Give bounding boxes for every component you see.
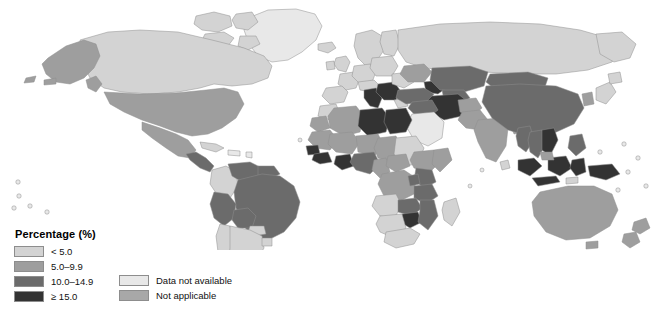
island-dot-pacific-7 (636, 156, 640, 160)
legend-label-lt-5: < 5.0 (51, 246, 72, 257)
choropleth-map-figure: .c0{fill:#d3d3d3;} /* < 5.0 */ .c1{fill:… (0, 0, 661, 325)
island-dot-pacific-9 (644, 184, 648, 188)
legend-column-percentage: < 5.0 5.0–9.9 10.0–14.9 ≥ 15.0 (14, 246, 93, 306)
island-dot-pacific-6 (622, 142, 626, 146)
island-dot-pacific-1 (16, 180, 20, 184)
map-legend: Percentage (%) < 5.0 5.0–9.9 10.0–14.9 (14, 228, 244, 318)
island-dot-pacific-5 (45, 210, 49, 214)
legend-item-not-applicable: Not applicable (119, 290, 232, 301)
legend-label-data-not-available: Data not available (156, 275, 232, 286)
region-ireland (326, 61, 335, 70)
region-poland-baltics (370, 56, 398, 76)
region-malaysia (540, 152, 554, 160)
legend-swatch-10-to-14 (14, 276, 44, 287)
legend-label-gte-15: ≥ 15.0 (51, 291, 77, 302)
island-dot-indian-1 (468, 184, 472, 188)
world-map-svg: .c0{fill:#d3d3d3;} /* < 5.0 */ .c1{fill:… (0, 0, 661, 250)
region-uruguay (262, 238, 272, 246)
island-dot-atlantic-1 (298, 138, 302, 142)
island-dot-pacific-10 (616, 188, 620, 192)
legend-swatch-gte-15 (14, 291, 44, 302)
legend-swatch-not-applicable (119, 290, 149, 301)
legend-swatch-lt-5 (14, 246, 44, 257)
legend-item-gte-15: ≥ 15.0 (14, 291, 93, 302)
region-uganda-rwanda (408, 174, 420, 186)
legend-label-not-applicable: Not applicable (156, 290, 216, 301)
legend-label-5-to-9: 5.0–9.9 (51, 261, 83, 272)
legend-swatch-5-to-9 (14, 261, 44, 272)
legend-title: Percentage (%) (15, 228, 244, 241)
island-dot-pacific-3 (12, 206, 16, 210)
region-lesser-antilles (246, 152, 252, 158)
legend-item-data-not-available: Data not available (119, 275, 232, 286)
region-sri-lanka (500, 160, 510, 170)
region-timor (566, 177, 578, 184)
island-dot-indian-2 (480, 168, 484, 172)
legend-swatch-data-not-available (119, 275, 149, 286)
legend-item-lt-5: < 5.0 (14, 246, 93, 257)
region-hispaniola (228, 150, 240, 156)
legend-column-status: Data not available Not applicable (119, 275, 232, 305)
island-dot-pacific-2 (17, 194, 21, 198)
island-dot-pacific-8 (626, 170, 630, 174)
legend-item-10-to-14: 10.0–14.9 (14, 276, 93, 287)
region-japan-north (608, 72, 622, 84)
island-dot-pacific-4 (28, 204, 32, 208)
region-korea (582, 92, 594, 106)
island-dot-pacific-11 (598, 150, 602, 154)
legend-label-10-to-14: 10.0–14.9 (51, 276, 93, 287)
region-tasmania (586, 241, 598, 249)
world-map-canvas: .c0{fill:#d3d3d3;} /* < 5.0 */ .c1{fill:… (0, 0, 661, 250)
legend-item-5-to-9: 5.0–9.9 (14, 261, 93, 272)
